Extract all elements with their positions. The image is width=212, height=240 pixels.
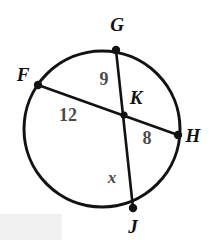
segment-label-gk: 9 bbox=[100, 69, 109, 89]
point-label-g: G bbox=[110, 14, 124, 35]
geometry-figure: G F K H J 9 12 8 x bbox=[0, 0, 212, 240]
point-marker-j bbox=[129, 204, 137, 212]
point-marker-g bbox=[112, 46, 120, 54]
point-marker-f bbox=[34, 81, 42, 89]
point-label-j: J bbox=[127, 216, 138, 237]
point-label-h: H bbox=[185, 125, 202, 146]
segment-label-kh: 8 bbox=[143, 128, 152, 148]
geometry-canvas: G F K H J 9 12 8 x bbox=[0, 0, 212, 240]
watermark-block bbox=[0, 214, 62, 240]
point-label-k: K bbox=[129, 87, 144, 108]
point-label-f: F bbox=[16, 64, 30, 85]
segment-label-kj: x bbox=[107, 168, 117, 187]
point-marker-h bbox=[174, 131, 182, 139]
point-marker-k bbox=[120, 111, 127, 118]
segment-label-fk: 12 bbox=[59, 105, 77, 125]
